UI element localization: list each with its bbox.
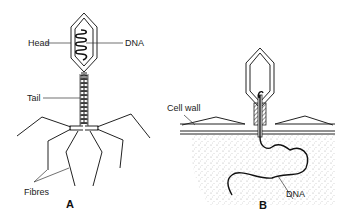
- label-dna-b: DNA: [286, 190, 305, 199]
- phage-a-dna-coil: [76, 30, 87, 60]
- panel-label-b: B: [259, 200, 267, 211]
- diagram-canvas: Head DNA Tail Fibres A Cell wall DNA B: [0, 0, 351, 217]
- label-tail: Tail: [27, 94, 41, 103]
- label-cell-wall: Cell wall: [167, 104, 201, 113]
- cell-cytoplasm: [192, 135, 335, 205]
- panel-label-a: A: [66, 199, 74, 210]
- label-head: Head: [28, 39, 50, 48]
- label-dna-a: DNA: [125, 39, 144, 48]
- phage-a-tail-sheath: [80, 72, 88, 130]
- phage-b: [180, 48, 335, 205]
- label-fibres: Fibres: [24, 188, 49, 197]
- phage-a-leader-lines: [34, 43, 123, 182]
